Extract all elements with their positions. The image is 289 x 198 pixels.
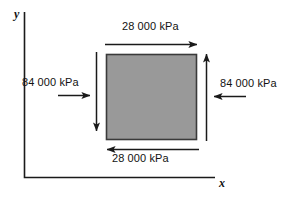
left-normal-stress-label: 84 000 kPa <box>22 76 79 88</box>
y-axis-label: y <box>14 7 19 22</box>
right-normal-stress-label: 84 000 kPa <box>220 77 277 89</box>
x-axis-label: x <box>219 176 225 191</box>
stress-element-figure: 28 000 kPa 28 000 kPa 84 000 kPa 84 000 … <box>0 0 289 198</box>
top-shear-label: 28 000 kPa <box>122 20 179 32</box>
bottom-shear-label: 28 000 kPa <box>112 152 169 164</box>
stress-element-square <box>107 55 197 140</box>
